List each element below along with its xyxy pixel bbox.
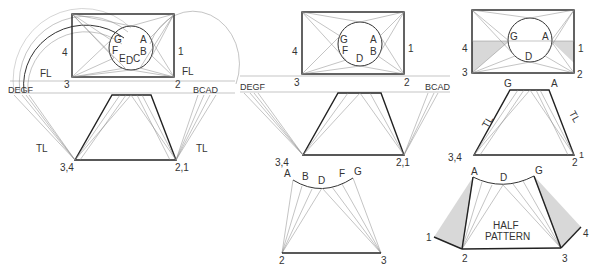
sheet-metal-transition-diagram: G A F E D C B 4 3 2 1 FL FL DEGF BCAD TL… [0, 0, 594, 268]
elevation-trapezoid [75, 95, 176, 160]
left-panel: G A F E D C B 4 3 2 1 FL FL DEGF BCAD TL… [8, 9, 239, 173]
true-length-label-right: TL [196, 143, 208, 154]
half-pattern-title-line2: PATTERN [485, 231, 530, 242]
corner-label-3: 3 [462, 67, 468, 78]
pattern-label-1: 1 [426, 232, 432, 243]
corner-label-2: 2 [175, 79, 181, 90]
base-label-2: 2 [572, 157, 578, 168]
arc-label-g: G [535, 165, 543, 176]
base-label-34: 3,4 [448, 152, 462, 163]
corner-label-1: 1 [178, 46, 184, 57]
base-label-21: 2,1 [396, 157, 410, 168]
base-label-1: 1 [579, 150, 584, 160]
elevation-label-g: G [504, 78, 512, 89]
projection-label-degf: DEGF [8, 85, 34, 95]
arc-label-a: A [471, 166, 478, 177]
radial-lines [72, 14, 174, 77]
arc-label-f: F [339, 168, 345, 179]
top-view-rectangle [72, 14, 174, 77]
arc-label-g: G [354, 166, 362, 177]
corner-label-4: 4 [292, 46, 298, 57]
point-label-a: A [140, 34, 147, 45]
point-label-d: D [356, 53, 363, 64]
arc-label-b: B [302, 171, 309, 182]
construction-arc-inner [28, 32, 122, 92]
point-label-g: G [340, 34, 348, 45]
right-panel: G A D 4 3 2 1 G A TL TL 3,4 2 1 A [426, 10, 589, 264]
corner-label-4: 4 [462, 43, 468, 54]
arc-label-d: D [500, 172, 507, 183]
point-label-g: G [114, 34, 122, 45]
corner-label-4: 4 [62, 47, 68, 58]
pattern-label-3: 3 [562, 253, 568, 264]
corner-label-1: 1 [408, 43, 414, 54]
arc-label-d: D [318, 175, 325, 186]
point-label-d: D [525, 51, 532, 62]
construction-arc-dark [24, 25, 124, 92]
point-label-a: A [370, 34, 377, 45]
point-label-a: A [542, 31, 549, 42]
point-label-b: B [370, 46, 377, 57]
true-length-label-right: TL [567, 109, 582, 125]
true-length-lines [244, 93, 438, 155]
base-label-21: 2,1 [175, 162, 189, 173]
pattern-label-3: 3 [381, 255, 387, 266]
pattern-label-4: 4 [583, 228, 589, 239]
base-label-34: 3,4 [60, 162, 74, 173]
fold-line-label-left: FL [40, 68, 52, 79]
pattern-label-2: 2 [462, 253, 468, 264]
pattern-lines [282, 178, 381, 253]
corner-label-3: 3 [64, 79, 70, 90]
corner-label-2: 2 [404, 77, 410, 88]
elevation-label-a: A [551, 78, 558, 89]
pattern-base [462, 248, 561, 249]
point-label-b: B [140, 46, 147, 57]
point-label-f: F [342, 45, 348, 56]
middle-panel: G A F B D 4 3 2 1 DEGF BCAD 3,4 2,1 A B … [240, 12, 451, 266]
point-label-g: G [510, 31, 518, 42]
base-label-34: 3,4 [275, 157, 289, 168]
projection-label-degf: DEGF [240, 82, 266, 92]
shaded-region-right [551, 41, 574, 63]
projection-label-bcad: BCAD [425, 82, 451, 92]
construction-arc-right [150, 11, 239, 84]
fold-line-label-right: FL [182, 66, 194, 77]
elevation-trapezoid [303, 93, 404, 155]
projection-label-bcad: BCAD [193, 85, 219, 95]
point-label-f: F [112, 45, 118, 56]
corner-label-3: 3 [294, 77, 300, 88]
arc-label-a: A [284, 168, 291, 179]
pattern-label-2: 2 [279, 255, 285, 266]
corner-label-1: 1 [578, 43, 584, 54]
corner-label-2: 2 [577, 69, 583, 80]
true-length-label-left: TL [36, 143, 48, 154]
half-pattern-title-line1: HALF [493, 220, 519, 231]
point-label-e: E [119, 53, 126, 64]
